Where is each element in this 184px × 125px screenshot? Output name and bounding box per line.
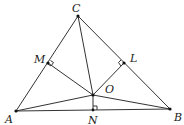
label-o: O bbox=[105, 83, 114, 96]
segment-mo bbox=[48, 63, 93, 95]
point-l bbox=[122, 61, 125, 64]
point-n bbox=[92, 109, 95, 112]
label-n: N bbox=[87, 114, 98, 125]
label-a: A bbox=[4, 113, 13, 125]
label-c: C bbox=[72, 2, 81, 15]
segment-ao bbox=[16, 95, 93, 111]
segment-co bbox=[78, 16, 93, 95]
geometry-diagram: C M L O A N B bbox=[0, 0, 184, 125]
label-b: B bbox=[173, 111, 182, 124]
label-l: L bbox=[129, 52, 137, 65]
point-a bbox=[14, 109, 17, 112]
point-m bbox=[46, 61, 49, 64]
label-m: M bbox=[33, 53, 46, 66]
point-o bbox=[91, 93, 94, 96]
point-b bbox=[168, 107, 171, 110]
